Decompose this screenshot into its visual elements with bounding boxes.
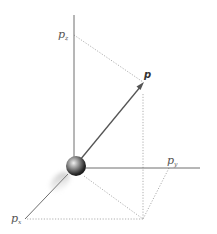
py-label: py (167, 154, 178, 168)
particle-sphere (66, 156, 86, 176)
pz-to-p-dotted-line (74, 35, 143, 82)
pz-label: pz (58, 28, 69, 41)
projection-lines (27, 35, 169, 219)
origin-to-base-dotted-line (84, 176, 143, 219)
py-base-dotted-line (143, 168, 169, 219)
px-label: px (11, 212, 22, 225)
p-label: p (143, 69, 151, 80)
momentum-vector (80, 82, 144, 160)
momentum-diagram: pz p py px (0, 0, 217, 234)
arrowhead-icon (137, 82, 145, 90)
